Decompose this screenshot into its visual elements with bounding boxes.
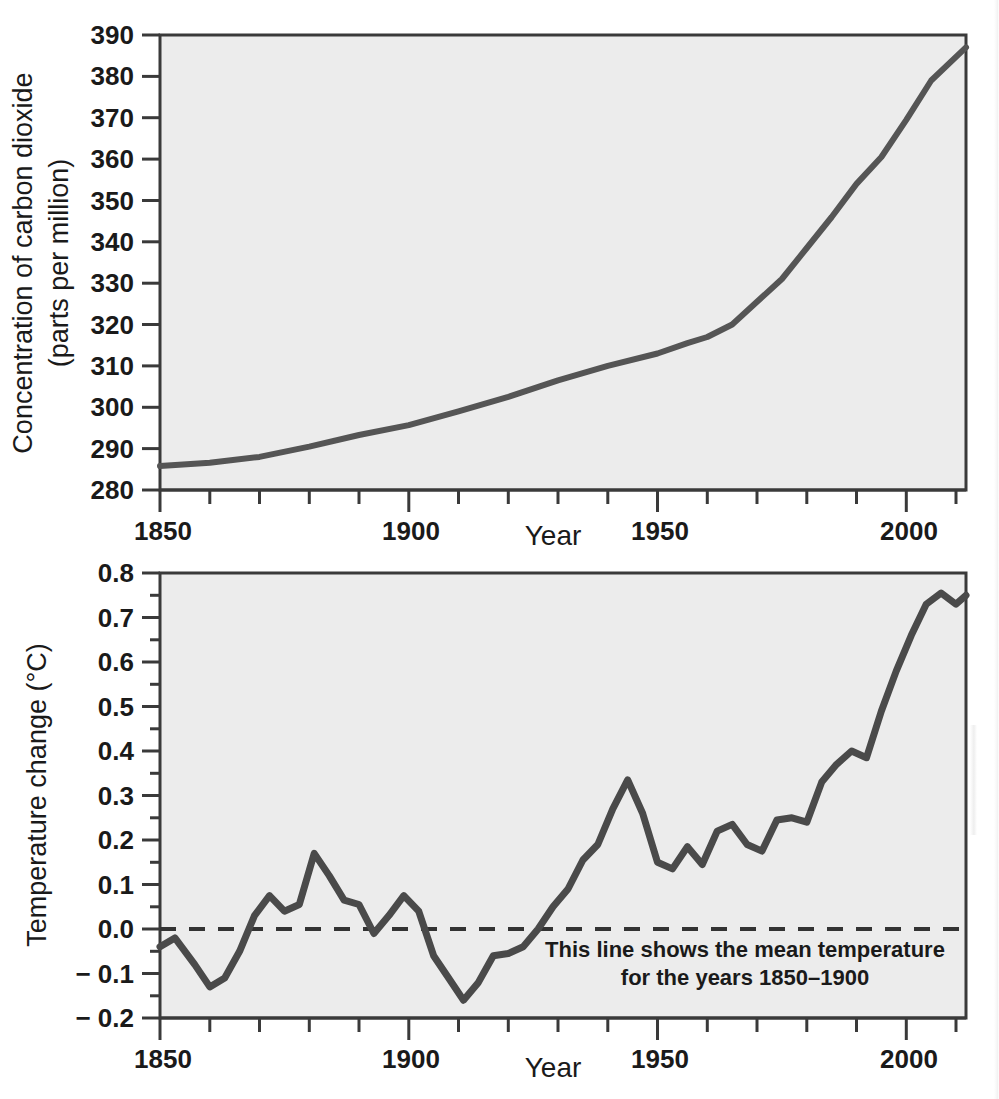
co2-ytick-label: 390 bbox=[91, 20, 134, 50]
temperature-ytick-label: 0.3 bbox=[98, 781, 134, 811]
temperature-ytick-label: − 0.2 bbox=[75, 1003, 134, 1033]
co2-y-tick-labels: 280 290 300 310 320 330 340 350 360 370 … bbox=[91, 20, 134, 505]
co2-ytick-label: 380 bbox=[91, 61, 134, 91]
co2-y-axis-title-line1: Concentration of carbon dioxide bbox=[8, 72, 38, 453]
temperature-ytick-label: 0.4 bbox=[98, 736, 135, 766]
temperature-xtick-label: 1850 bbox=[134, 1044, 192, 1074]
co2-xtick-label: 1850 bbox=[134, 516, 192, 546]
temperature-x-major-ticks bbox=[160, 1018, 906, 1040]
temperature-x-minor-ticks bbox=[210, 1018, 956, 1032]
carbon-dioxide-concentration-chart: 280 290 300 310 320 330 340 350 360 370 … bbox=[8, 20, 966, 551]
co2-ytick-label: 360 bbox=[91, 144, 134, 174]
co2-ytick-label: 320 bbox=[91, 310, 134, 340]
co2-ytick-label: 290 bbox=[91, 434, 134, 464]
co2-ytick-label: 370 bbox=[91, 103, 134, 133]
co2-x-major-ticks bbox=[160, 490, 906, 512]
co2-x-axis bbox=[160, 490, 966, 512]
co2-ytick-label: 280 bbox=[91, 475, 134, 505]
co2-x-axis-title: Year bbox=[525, 520, 582, 551]
temperature-x-axis bbox=[160, 1018, 966, 1040]
co2-ytick-label: 350 bbox=[91, 186, 134, 216]
temperature-ytick-label: 0.8 bbox=[98, 558, 134, 588]
co2-ytick-label: 340 bbox=[91, 227, 134, 257]
co2-xtick-label: 1950 bbox=[631, 516, 689, 546]
temperature-ytick-label: 0.0 bbox=[98, 914, 134, 944]
climate-figure: 280 290 300 310 320 330 340 350 360 370 … bbox=[0, 0, 999, 1099]
co2-y-ticks bbox=[142, 35, 160, 490]
co2-ytick-label: 300 bbox=[91, 392, 134, 422]
co2-xtick-label: 2000 bbox=[880, 516, 938, 546]
temperature-x-axis-title: Year bbox=[525, 1052, 582, 1083]
co2-xtick-label: 1900 bbox=[382, 516, 440, 546]
temperature-y-tick-labels: − 0.2 − 0.1 0.0 0.1 0.2 0.3 0.4 0.5 0.6 … bbox=[75, 558, 134, 1033]
annotation-line-2: for the years 1850–1900 bbox=[621, 965, 869, 990]
temperature-y-axis-title: Temperature change (°C) bbox=[22, 643, 52, 946]
temperature-ytick-label: 0.2 bbox=[98, 825, 134, 855]
co2-y-axis-title-line2: (parts per million) bbox=[44, 159, 74, 368]
temperature-xtick-label: 1950 bbox=[631, 1044, 689, 1074]
temperature-ytick-label: 0.1 bbox=[98, 870, 134, 900]
temperature-xtick-label: 2000 bbox=[880, 1044, 938, 1074]
temperature-xtick-label: 1900 bbox=[382, 1044, 440, 1074]
temperature-ytick-label: 0.6 bbox=[98, 647, 134, 677]
temperature-change-chart: − 0.2 − 0.1 0.0 0.1 0.2 0.3 0.4 0.5 0.6 … bbox=[22, 558, 966, 1083]
figure-svg: 280 290 300 310 320 330 340 350 360 370 … bbox=[0, 0, 999, 1099]
co2-plot-background bbox=[160, 35, 966, 490]
co2-x-minor-ticks bbox=[210, 490, 956, 504]
annotation-line-1: This line shows the mean temperature bbox=[545, 937, 945, 962]
temperature-ytick-label: − 0.1 bbox=[75, 959, 134, 989]
temperature-ytick-label: 0.7 bbox=[98, 603, 134, 633]
co2-ytick-label: 310 bbox=[91, 351, 134, 381]
co2-ytick-label: 330 bbox=[91, 268, 134, 298]
temperature-ytick-label: 0.5 bbox=[98, 692, 134, 722]
